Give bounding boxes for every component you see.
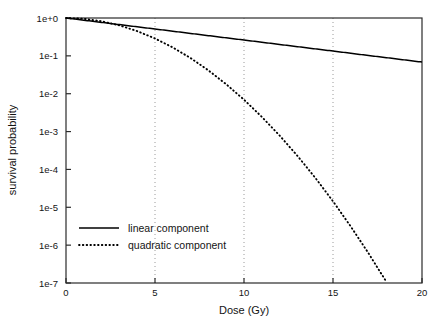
y-tick-label-4: 1e-4 bbox=[39, 164, 58, 175]
x-tick-label-1: 5 bbox=[152, 287, 157, 298]
y-tick-label-5: 1e-5 bbox=[39, 202, 58, 213]
survival-probability-chart: 1e+01e-11e-21e-31e-41e-51e-61e-7 0510152… bbox=[0, 0, 436, 327]
y-tick-label-6: 1e-6 bbox=[39, 240, 58, 251]
x-tick-label-3: 15 bbox=[328, 287, 339, 298]
y-tick-label-0: 1e+0 bbox=[37, 13, 58, 24]
y-tick-label-7: 1e-7 bbox=[39, 278, 58, 289]
legend-label-quadratic: quadratic component bbox=[128, 239, 226, 251]
x-tick-label-0: 0 bbox=[63, 287, 68, 298]
y-tick-label-3: 1e-3 bbox=[39, 126, 58, 137]
x-tick-label-4: 20 bbox=[417, 287, 428, 298]
x-tick-label-2: 10 bbox=[239, 287, 250, 298]
chart-figure: 1e+01e-11e-21e-31e-41e-51e-61e-7 0510152… bbox=[0, 0, 436, 327]
x-axis-title: Dose (Gy) bbox=[219, 304, 269, 316]
legend-label-linear: linear component bbox=[128, 222, 209, 234]
y-tick-label-2: 1e-2 bbox=[39, 88, 58, 99]
y-axis-title: survival probability bbox=[6, 104, 18, 195]
y-tick-label-1: 1e-1 bbox=[39, 50, 58, 61]
